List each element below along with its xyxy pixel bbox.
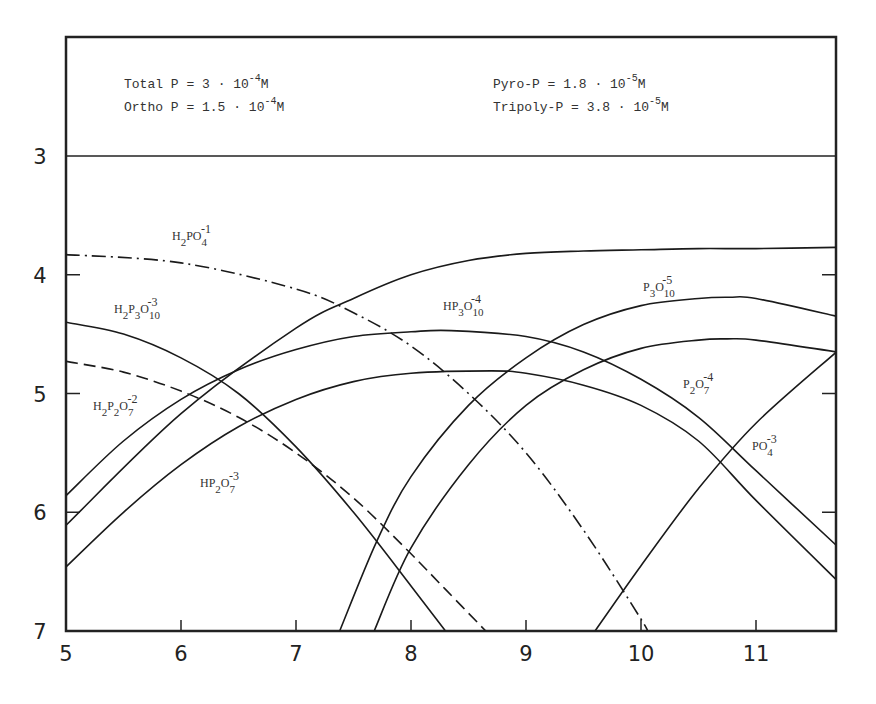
speciation-chart: 56789101134567 H2PO4-1H2P3O10-3H2P2O7-2H… (0, 0, 876, 704)
label-charge: -3 (148, 295, 158, 309)
y-tick-label: 3 (33, 145, 46, 169)
y-tick-label: 5 (33, 383, 46, 407)
curve-po43 (595, 352, 837, 631)
label-charge: -4 (703, 370, 713, 384)
x-tick-label: 7 (289, 642, 302, 666)
label-charge: -3 (767, 432, 777, 446)
curve-hp2o73 (66, 371, 837, 580)
x-tick-label: 10 (628, 642, 655, 666)
label-charge: -3 (229, 469, 239, 483)
curve-hp3o104 (66, 330, 837, 545)
x-tick-label: 9 (519, 642, 532, 666)
label-charge: -4 (471, 292, 481, 306)
x-tick-label: 5 (59, 642, 72, 666)
y-tick-label: 4 (33, 264, 46, 288)
curve-p3o105 (340, 297, 837, 631)
y-tick-label: 7 (33, 620, 46, 644)
label-charge: -1 (201, 222, 211, 236)
x-tick-label: 8 (404, 642, 417, 666)
y-tick-label: 6 (33, 501, 46, 525)
chart-frame (66, 37, 836, 631)
label-charge: -2 (128, 392, 138, 406)
curve-p2o74 (374, 339, 836, 631)
curve-hpo42 (66, 247, 837, 525)
curve-h2p3o103 (66, 322, 446, 631)
label-charge: -5 (662, 273, 672, 287)
x-tick-label: 6 (174, 642, 187, 666)
x-tick-label: 11 (743, 642, 770, 666)
axis-ticks: 56789101134567 (33, 145, 836, 666)
